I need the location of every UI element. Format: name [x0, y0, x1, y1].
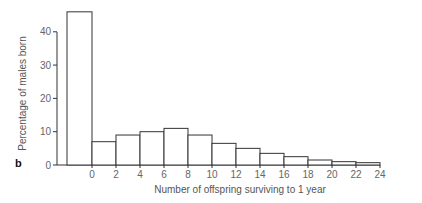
- x-tick-label: 24: [374, 169, 386, 180]
- bars: [67, 12, 380, 165]
- bar: [236, 148, 260, 165]
- x-tick-label: 2: [113, 169, 119, 180]
- x-tick-label: 18: [302, 169, 314, 180]
- y-tick-label: 0: [45, 160, 51, 171]
- x-tick-label: 4: [137, 169, 143, 180]
- bar: [308, 160, 332, 165]
- bar: [116, 135, 140, 165]
- bar: [164, 128, 188, 165]
- bar: [212, 143, 236, 165]
- x-tick-label: 20: [326, 169, 338, 180]
- bar: [140, 132, 164, 165]
- x-tick-label: 14: [254, 169, 266, 180]
- y-ticks: 010203040: [40, 26, 57, 170]
- bar: [92, 142, 116, 165]
- bar: [284, 157, 308, 165]
- bar: [356, 163, 380, 165]
- panel-label: b: [15, 157, 22, 169]
- x-tick-label: 0: [89, 169, 95, 180]
- x-tick-label: 6: [161, 169, 167, 180]
- bar: [332, 162, 356, 165]
- y-axis-label: Percentage of males born: [17, 29, 28, 159]
- y-tick-label: 30: [40, 60, 52, 71]
- x-tick-label: 8: [185, 169, 191, 180]
- x-ticks: 024681012141618202224: [89, 165, 386, 180]
- y-tick-label: 20: [40, 93, 52, 104]
- y-tick-label: 40: [40, 26, 52, 37]
- x-tick-label: 10: [206, 169, 218, 180]
- bar: [260, 153, 284, 165]
- x-tick-label: 12: [230, 169, 242, 180]
- x-tick-label: 16: [278, 169, 290, 180]
- histogram-chart: 010203040 024681012141618202224: [0, 0, 422, 203]
- x-axis-label: Number of offspring surviving to 1 year: [140, 184, 340, 195]
- bar: [67, 12, 92, 165]
- bar: [188, 135, 212, 165]
- y-tick-label: 10: [40, 126, 52, 137]
- x-tick-label: 22: [350, 169, 362, 180]
